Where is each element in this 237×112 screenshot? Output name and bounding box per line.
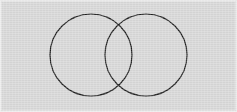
right-circle xyxy=(105,14,187,96)
figure-container xyxy=(0,0,237,112)
left-circle xyxy=(50,14,132,96)
two-circles-diagram xyxy=(0,0,237,112)
